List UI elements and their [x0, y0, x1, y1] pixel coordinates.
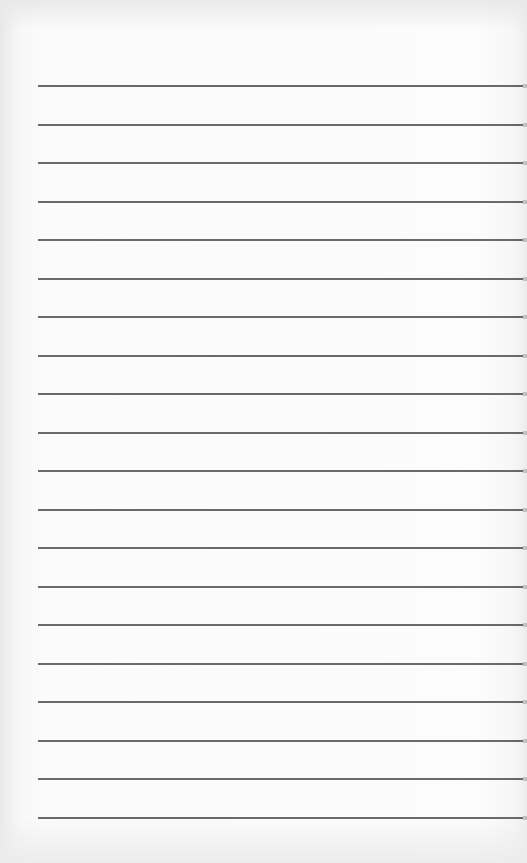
- ruled-line: [38, 509, 527, 511]
- ruled-line: [38, 162, 527, 164]
- ruled-line: [38, 586, 527, 588]
- ruled-line: [38, 740, 527, 742]
- ruled-line: [38, 817, 527, 819]
- ruled-line: [38, 124, 527, 126]
- ruled-line: [38, 470, 527, 472]
- ruled-line: [38, 778, 527, 780]
- ruled-line: [38, 624, 527, 626]
- scan-shadow-bottom: [0, 818, 527, 863]
- ruled-line: [38, 355, 527, 357]
- scan-shadow-top: [0, 0, 527, 30]
- ruled-line: [38, 701, 527, 703]
- ruled-line: [38, 85, 527, 87]
- lined-paper-page: [0, 0, 527, 863]
- ruled-line: [38, 239, 527, 241]
- ruled-line: [38, 393, 527, 395]
- ruled-line: [38, 663, 527, 665]
- ruled-line: [38, 201, 527, 203]
- ruled-line: [38, 278, 527, 280]
- ruled-line: [38, 547, 527, 549]
- ruled-line: [38, 432, 527, 434]
- ruled-line: [38, 316, 527, 318]
